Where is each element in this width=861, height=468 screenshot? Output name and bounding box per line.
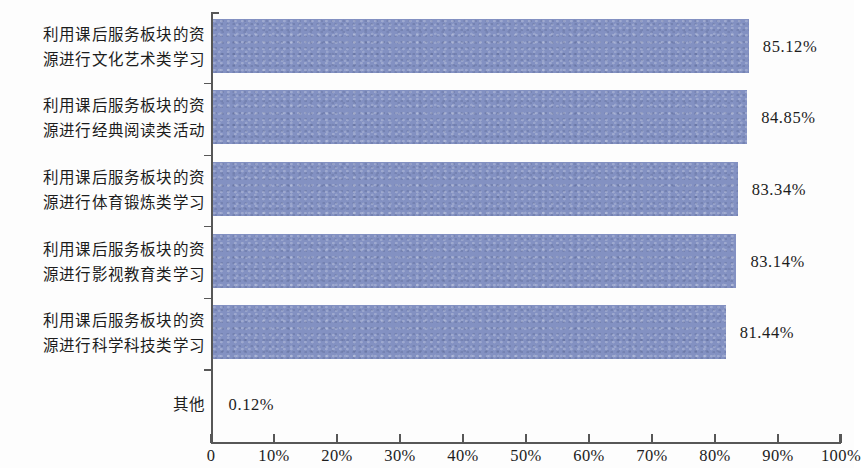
x-axis-tick	[714, 434, 715, 443]
x-axis-tick-label: 40%	[447, 446, 478, 466]
x-axis-tick-label: 50%	[510, 446, 541, 466]
value-label: 84.85%	[761, 108, 815, 128]
bar	[213, 90, 748, 144]
x-axis-tick	[525, 434, 526, 443]
x-axis-tick	[840, 434, 841, 443]
y-axis-tick	[204, 298, 212, 299]
x-axis-tick	[462, 434, 463, 443]
x-axis-tick	[273, 434, 274, 443]
x-axis-tick-label: 90%	[762, 446, 793, 466]
x-axis-tick	[336, 434, 337, 443]
category-label: 利用课后服务板块的资 源进行影视教育类学习	[5, 237, 205, 287]
x-axis-tick-label: 60%	[573, 446, 604, 466]
x-axis-tick	[399, 434, 400, 443]
category-label: 利用课后服务板块的资 源进行体育锻炼类学习	[5, 165, 205, 215]
x-axis-tick	[777, 434, 778, 443]
value-label: 85.12%	[763, 37, 817, 57]
bar	[213, 234, 737, 288]
bar	[213, 377, 214, 431]
x-axis-tick	[588, 434, 589, 443]
x-axis-tick-label: 70%	[636, 446, 667, 466]
y-axis-tick	[204, 226, 212, 227]
x-axis-tick-label: 20%	[321, 446, 352, 466]
x-axis-tick-label: 10%	[258, 446, 289, 466]
category-label: 利用课后服务板块的资 源进行经典阅读类活动	[5, 93, 205, 143]
bar	[213, 162, 738, 216]
value-label: 83.14%	[750, 252, 804, 272]
y-axis-tick	[204, 83, 212, 84]
category-label: 利用课后服务板块的资 源进行科学科技类学习	[5, 308, 205, 358]
x-axis-tick-label: 30%	[384, 446, 415, 466]
y-axis-tick	[204, 369, 212, 370]
bar	[213, 305, 726, 359]
x-axis-tick	[651, 434, 652, 443]
x-axis-tick-label: 100%	[821, 446, 861, 466]
bar	[213, 19, 749, 73]
y-axis-top-cap	[211, 12, 219, 14]
value-label: 0.12%	[229, 395, 275, 415]
y-axis-bottom-cap	[211, 442, 219, 444]
value-label: 81.44%	[740, 323, 794, 343]
y-axis-tick	[204, 155, 212, 156]
value-label: 83.34%	[752, 180, 806, 200]
x-axis-tick-label: 80%	[699, 446, 730, 466]
category-label: 利用课后服务板块的资 源进行文化艺术类学习	[5, 22, 205, 72]
category-label: 其他	[5, 392, 205, 417]
x-axis-tick-label: 0	[207, 446, 216, 466]
x-axis-tick	[210, 434, 211, 443]
